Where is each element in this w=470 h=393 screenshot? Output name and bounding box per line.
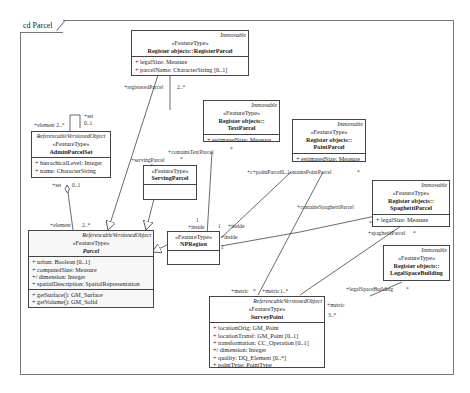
class-admin-parcel-set[interactable]: ReferencableVersionedObject «FeatureType… (31, 131, 111, 178)
attribute: + quality: DQ_Element [0..*] (213, 354, 321, 361)
class-name-line2: SpaghettiParcel (375, 204, 447, 211)
class-name: ServingParcel (146, 174, 194, 181)
role-contains-spaghetti: +containsSpaghettiParcel (297, 204, 354, 210)
class-legal-space-building[interactable]: Immovable «FeatureType» Register objects… (383, 245, 450, 281)
abstract-label: Immovable (375, 182, 447, 189)
class-survey-point[interactable]: ReferencableVersionedObject «FeatureType… (209, 296, 325, 368)
attribute: + urban: Boolean [0..1] (32, 258, 150, 265)
mult-point-star: * (357, 169, 360, 175)
attributes: + estimatedSize: Measure (204, 134, 279, 144)
class-spaghetti-parcel[interactable]: Immovable «FeatureType» Register objects… (372, 180, 450, 227)
class-name-line2: LegalSpaceBuilding (386, 269, 447, 276)
stereotype: «FeatureType» (295, 128, 363, 135)
stereotype: «FeatureType» (206, 109, 277, 116)
mult-legal-star: * (406, 286, 409, 292)
attribute: +/ dimension: Integer (213, 346, 321, 353)
role-inside-3: +inside (221, 234, 238, 240)
class-name-line2: PointParcel (295, 143, 363, 150)
mult-set-bottom: 0..1 (72, 182, 80, 188)
attribute: + transformation: CC_Operation [0..1] (213, 339, 321, 346)
class-name-line1: Register objects:: (386, 262, 447, 269)
class-name-line1: Register objects:: (206, 117, 277, 124)
abstract-label: Immovable (386, 247, 447, 254)
mult-registered-parcel: 2..* (177, 84, 185, 90)
abstract-label: ReferencableVersionedObject (31, 232, 151, 239)
class-point-parcel[interactable]: Immovable «FeatureType» Register objects… (292, 119, 366, 162)
role-element-top: +element 2..* (34, 122, 65, 128)
abstract-label: Immovable (134, 32, 246, 39)
role-metric-2: +metric (262, 288, 279, 294)
attribute: + spatialDescription: SpatialRepresentat… (32, 280, 150, 287)
class-text-parcel[interactable]: Immovable «FeatureType» Register objects… (203, 100, 280, 142)
role-set-bottom: +set (52, 182, 61, 188)
attribute: + locationTransf: GM_Point [0..1] (213, 332, 321, 339)
role-cp-point-parcel: +c+pointParcel0..1ontainsPointParcel (247, 169, 332, 175)
attribute: + estimatedSize: Measure (207, 136, 276, 143)
attributes: + locationOrig: GM_Point + locationTrans… (210, 322, 324, 369)
stereotype: «FeatureType» (134, 39, 246, 46)
attribute: + legalSize: Measure (135, 58, 245, 65)
stereotype: «FeatureType» (212, 305, 322, 312)
abstract-label: Immovable (295, 121, 363, 128)
attribute: + parcelName: CharacterString [0..1] (135, 66, 245, 73)
abstract-label: Immovable (206, 102, 277, 109)
class-name-line2: TextParcel (206, 124, 277, 131)
class-parcel[interactable]: ReferencableVersionedObject «FeatureType… (28, 230, 154, 308)
attributes: + legalSize: Measure + parcelName: Chara… (132, 56, 248, 74)
role-legal-space-building: +legalSpaceBuilding (346, 286, 393, 292)
class-name: Parcel (31, 247, 151, 254)
mult-inside-3: 1 (221, 244, 224, 250)
operation: + getVolume(): GM_Solid (32, 298, 150, 305)
mult-set-top: 0..1 (84, 120, 92, 126)
stereotype: «FeatureType» (375, 189, 447, 196)
attribute: + pointType: PointType (213, 361, 321, 368)
attributes: + hierachicalLevel: Integer + name: Char… (32, 157, 110, 175)
attribute: + estimatedSize: Measure (296, 155, 362, 162)
attribute: + hierachicalLevel: Integer (35, 159, 107, 166)
role-metric-1: +metric (231, 288, 248, 294)
class-name: NPRegion (170, 240, 217, 247)
mult-metric-3: 3..* (328, 312, 336, 318)
stereotype: «FeatureType» (386, 254, 447, 261)
attribute: +/ dimension: Integer (32, 273, 150, 280)
mult-metric-1: * (253, 288, 256, 294)
role-inside-1: +inside (188, 224, 205, 230)
stereotype: «FeatureType» (31, 239, 151, 246)
abstract-label: ReferencableVersionedObject (34, 133, 108, 140)
role-element-bottom: +element (50, 222, 71, 228)
attribute: + name: CharacterString (35, 167, 107, 174)
attribute: + legalSize: Measure (376, 216, 446, 223)
attribute: + computedSize: Measure (32, 266, 150, 273)
attributes: + legalSize: Measure (373, 214, 449, 224)
mult-contains-text: * (180, 156, 183, 162)
attributes: + urban: Boolean [0..1] + computedSize: … (29, 256, 153, 289)
abstract-label: ReferencableVersionedObject (212, 298, 322, 305)
role-registered-parcel: +registeredParcel (124, 84, 163, 90)
role-set-top: +set (84, 113, 93, 119)
mult-metric-2: 1..* (280, 288, 288, 294)
stereotype: «FeatureType» (34, 140, 108, 147)
stereotype: «FeatureType» (170, 233, 217, 240)
mult-element-bottom: 2..* (82, 222, 90, 228)
class-name-line1: Register objects:: (375, 197, 447, 204)
class-name-line1: Register objects:: (295, 136, 363, 143)
stereotype: «FeatureType» (146, 167, 194, 174)
mult-spaghetti-side: * (369, 220, 372, 226)
class-serving-parcel[interactable]: «FeatureType» ServingParcel (143, 165, 197, 200)
role-spaghetti-parcel: +spaghettiParcel (368, 230, 405, 236)
mult-text-star: * (230, 146, 233, 152)
role-serving-parcel: +servingParcel (131, 157, 165, 163)
operations: + getSurface(): GM_Surface + getVolume()… (29, 289, 153, 307)
class-name: SurveyPoint (212, 313, 322, 320)
attribute: + locationOrig: GM_Point (213, 324, 321, 331)
class-name: Register objects::RegisterParcel (134, 47, 246, 54)
mult-inside-1: 1 (196, 217, 199, 223)
class-np-region[interactable]: «FeatureType» NPRegion (167, 231, 220, 265)
class-name: AdminParcelSet (34, 148, 108, 155)
class-register-parcel[interactable]: Immovable «FeatureType» Register objects… (131, 30, 249, 76)
role-metric-3: +metric (327, 302, 344, 308)
operation: + getSurface(): GM_Surface (32, 291, 150, 298)
role-contains-text-parcel: +containsTextParcel (168, 149, 214, 155)
mult-serving: * (150, 163, 153, 169)
role-inside-2: +inside (228, 223, 245, 229)
